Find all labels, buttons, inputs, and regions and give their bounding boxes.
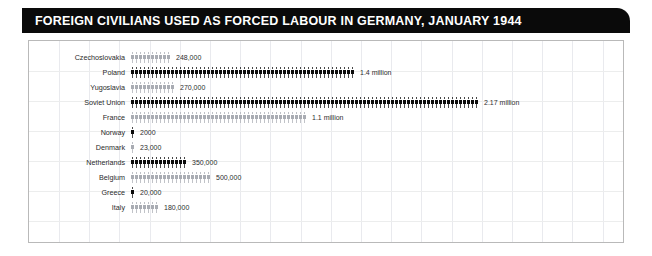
person-icon bbox=[147, 157, 150, 168]
person-icon bbox=[151, 157, 154, 168]
person-icon bbox=[219, 112, 222, 123]
row-value-label: 1.4 million bbox=[355, 65, 392, 80]
person-icon bbox=[255, 97, 258, 108]
person-icon bbox=[291, 112, 294, 123]
person-icon bbox=[427, 97, 430, 108]
person-icon bbox=[187, 112, 190, 123]
person-icon bbox=[267, 112, 270, 123]
person-icon bbox=[179, 157, 182, 168]
person-icon bbox=[147, 82, 150, 93]
pictogram-bar bbox=[131, 202, 159, 213]
person-icon bbox=[175, 112, 178, 123]
person-icon bbox=[187, 67, 190, 78]
chart-rows: Czechoslovakia248,000Poland1.4 millionYu… bbox=[29, 50, 623, 215]
person-icon bbox=[251, 67, 254, 78]
person-icon bbox=[139, 157, 142, 168]
person-icon bbox=[251, 97, 254, 108]
person-icon bbox=[355, 97, 358, 108]
row-value-label: 270,000 bbox=[175, 80, 205, 95]
person-icon bbox=[159, 172, 162, 183]
title-bar: FOREIGN CIVILIANS USED AS FORCED LABOUR … bbox=[22, 8, 630, 33]
row-bar-wrapper: 500,000 bbox=[131, 170, 623, 185]
row-label: Belgium bbox=[29, 170, 131, 185]
person-icon bbox=[131, 202, 134, 213]
person-icon bbox=[211, 112, 214, 123]
person-icon bbox=[255, 67, 258, 78]
person-icon bbox=[371, 97, 374, 108]
person-icon bbox=[475, 97, 478, 108]
person-icon bbox=[287, 112, 290, 123]
person-icon bbox=[403, 97, 406, 108]
person-icon bbox=[175, 97, 178, 108]
person-icon bbox=[303, 67, 306, 78]
person-icon bbox=[155, 202, 158, 213]
person-icon bbox=[471, 97, 474, 108]
person-icon bbox=[159, 67, 162, 78]
person-icon bbox=[183, 112, 186, 123]
person-icon bbox=[251, 112, 254, 123]
pictogram-bar bbox=[131, 172, 211, 183]
person-icon bbox=[195, 97, 198, 108]
row-bar-wrapper: 1.1 million bbox=[131, 110, 623, 125]
person-icon bbox=[171, 172, 174, 183]
person-icon bbox=[391, 97, 394, 108]
person-icon bbox=[139, 52, 142, 63]
person-icon bbox=[351, 97, 354, 108]
person-icon bbox=[259, 67, 262, 78]
person-icon bbox=[467, 97, 470, 108]
person-icon bbox=[163, 82, 166, 93]
person-icon bbox=[131, 52, 134, 63]
person-icon bbox=[315, 97, 318, 108]
chart-row: Greece20,000 bbox=[29, 185, 623, 200]
person-icon bbox=[143, 172, 146, 183]
person-icon bbox=[267, 67, 270, 78]
person-icon bbox=[179, 112, 182, 123]
person-icon bbox=[295, 112, 298, 123]
person-icon bbox=[247, 97, 250, 108]
person-icon bbox=[135, 52, 138, 63]
person-icon bbox=[167, 67, 170, 78]
person-icon bbox=[247, 112, 250, 123]
person-icon bbox=[307, 97, 310, 108]
row-label: Italy bbox=[29, 200, 131, 215]
person-icon bbox=[131, 142, 134, 153]
person-icon bbox=[199, 112, 202, 123]
person-icon bbox=[203, 67, 206, 78]
person-icon bbox=[303, 112, 306, 123]
pictogram-bar bbox=[131, 112, 307, 123]
person-icon bbox=[323, 67, 326, 78]
person-icon bbox=[203, 172, 206, 183]
person-icon bbox=[195, 112, 198, 123]
person-icon bbox=[151, 82, 154, 93]
person-icon bbox=[279, 97, 282, 108]
person-icon bbox=[163, 112, 166, 123]
person-icon bbox=[167, 52, 170, 63]
person-icon bbox=[295, 67, 298, 78]
person-icon bbox=[211, 97, 214, 108]
person-icon bbox=[187, 97, 190, 108]
person-icon bbox=[151, 97, 154, 108]
row-bar-wrapper: 23,000 bbox=[131, 140, 623, 155]
person-icon bbox=[159, 157, 162, 168]
chart-frame: Czechoslovakia248,000Poland1.4 millionYu… bbox=[28, 40, 624, 243]
person-icon bbox=[335, 97, 338, 108]
person-icon bbox=[139, 172, 142, 183]
person-icon bbox=[339, 97, 342, 108]
person-icon bbox=[131, 82, 134, 93]
person-icon bbox=[155, 112, 158, 123]
person-icon bbox=[195, 67, 198, 78]
person-icon bbox=[331, 67, 334, 78]
person-icon bbox=[191, 112, 194, 123]
person-icon bbox=[203, 97, 206, 108]
person-icon bbox=[163, 52, 166, 63]
person-icon bbox=[215, 97, 218, 108]
person-icon bbox=[159, 82, 162, 93]
person-icon bbox=[139, 97, 142, 108]
person-icon bbox=[199, 67, 202, 78]
person-icon bbox=[219, 97, 222, 108]
row-value-label: 2000 bbox=[135, 125, 156, 140]
person-icon bbox=[179, 97, 182, 108]
person-icon bbox=[299, 97, 302, 108]
row-bar-wrapper: 180,000 bbox=[131, 200, 623, 215]
person-icon bbox=[183, 157, 186, 168]
